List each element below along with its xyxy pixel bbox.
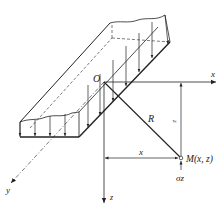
- z-axis-label: z: [109, 193, 114, 202]
- radius-line: [104, 82, 180, 157]
- dim-z-label: z: [171, 119, 179, 123]
- diagram-canvas: O x y z R x z M(x, z) σz: [0, 0, 224, 209]
- x-axis-label: x: [210, 69, 215, 79]
- point-m-marker: [179, 156, 183, 160]
- point-m-label: M(x, z): [185, 154, 213, 165]
- dimensions: [105, 83, 181, 170]
- dim-x-label: x: [138, 147, 143, 157]
- y-axis: [11, 82, 104, 183]
- y-axis-label: y: [5, 185, 10, 195]
- origin-label: O: [93, 73, 100, 84]
- radius-label: R: [147, 113, 154, 124]
- stress-label: σz: [176, 173, 184, 183]
